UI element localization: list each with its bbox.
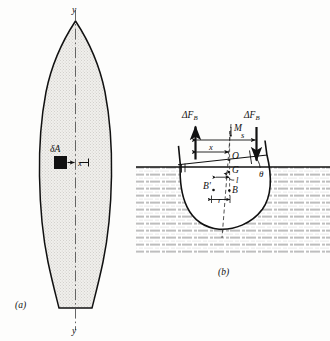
dimension-s-label: s xyxy=(241,130,245,140)
moment-arm-label: x xyxy=(77,158,82,168)
center-of-buoyancy-label: B xyxy=(232,185,238,195)
panel-a-group: y y δA x (a) xyxy=(15,5,112,336)
caption-a: (a) xyxy=(15,300,26,311)
metacenter-point xyxy=(230,135,232,137)
center-of-gravity-label: G xyxy=(232,165,239,175)
origin-point xyxy=(228,159,230,161)
figure-canvas: y y δA x (a) xyxy=(0,0,330,341)
center-of-gravity-point xyxy=(228,171,230,173)
shifted-buoyancy-label: B' xyxy=(203,181,212,191)
figure-root: y y δA x (a) xyxy=(0,0,330,341)
heel-angle-label: θ xyxy=(259,169,264,179)
axis-label-top: y xyxy=(71,5,77,15)
center-of-buoyancy-point xyxy=(228,189,231,192)
elemental-area-square xyxy=(54,156,67,169)
delta-force-right-label: ΔFB xyxy=(243,110,260,121)
origin-label: O xyxy=(232,151,239,161)
panel-b-group: ΔFB ΔFB M s x O G θ l B' B r (b) xyxy=(136,110,330,278)
shifted-buoyancy-point xyxy=(212,189,215,192)
dimension-x-label: x xyxy=(208,142,213,152)
delta-force-left-label: ΔFB xyxy=(181,110,198,121)
axis-label-bottom: y xyxy=(71,326,77,336)
elemental-area-label: δA xyxy=(50,144,60,154)
heeled-waterplane-line xyxy=(178,155,267,165)
caption-b: (b) xyxy=(218,267,229,278)
